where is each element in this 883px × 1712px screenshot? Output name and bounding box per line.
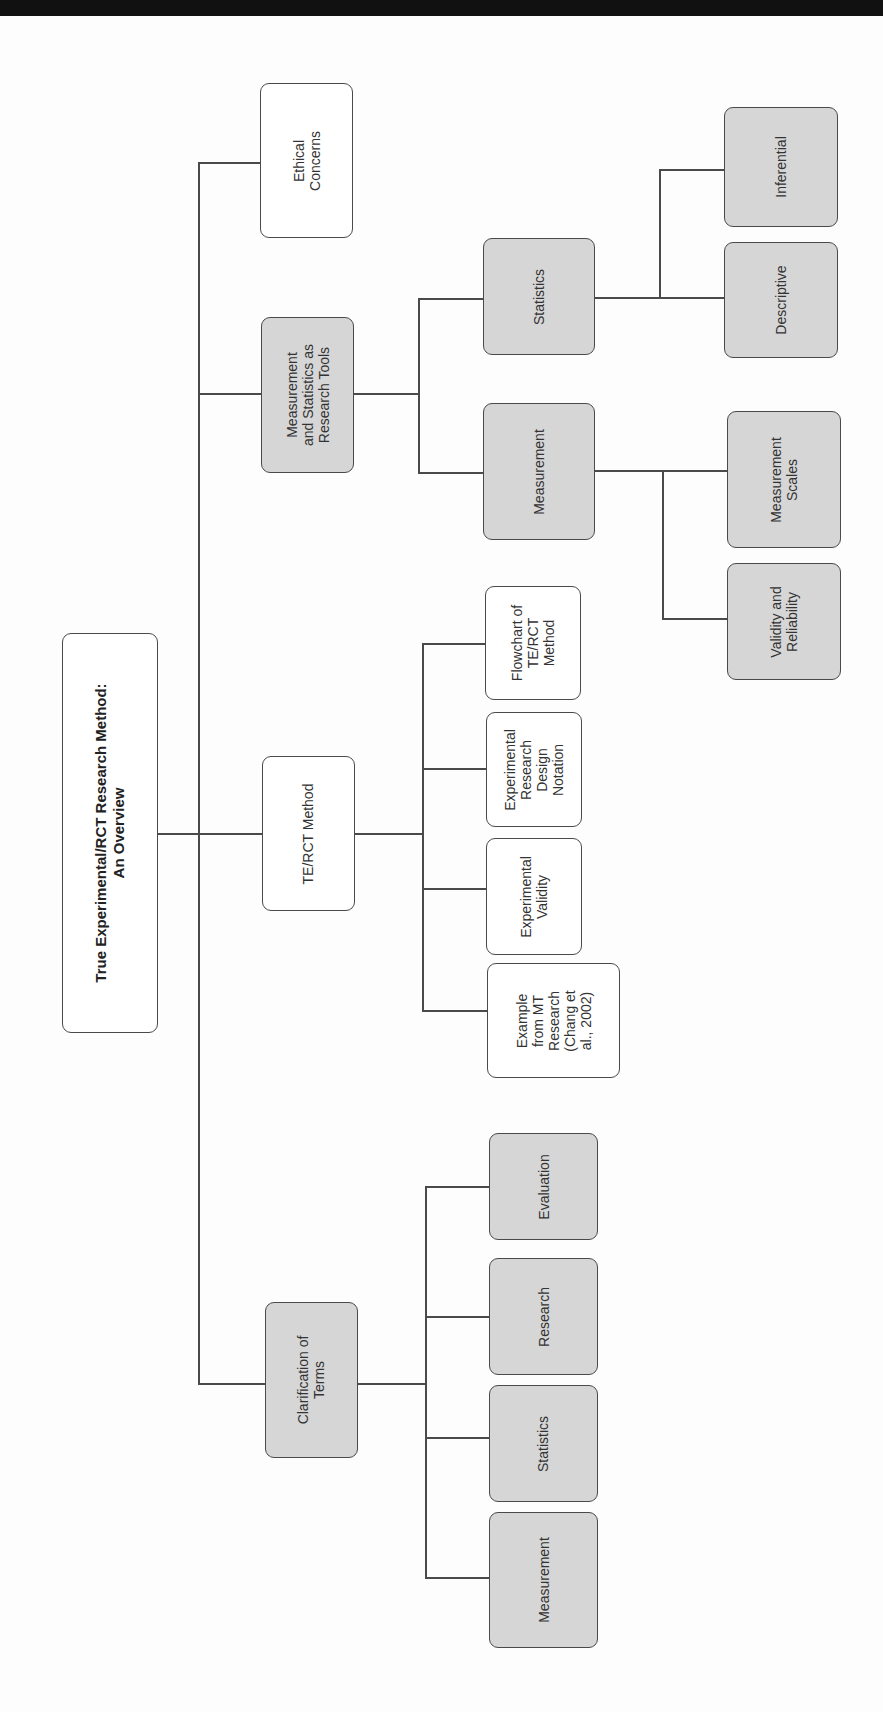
node-statistics: Statistics [489,1385,598,1502]
connector-clar-measurement [425,1577,489,1579]
node-label: Flowchart of TE/RCT Method [509,605,557,681]
top-black-band [0,0,883,16]
connector-ms-statistics [418,298,483,300]
root-node: True Experimental/RCT Research Method: A… [62,633,158,1033]
node-label: Measurement [531,429,547,515]
node-experimental-validity: Experimental Validity [486,838,582,955]
node-label: Experimental Research Design Notation [502,729,566,811]
connector-meas-out [595,470,727,472]
node-label: Inferential [773,136,789,197]
node-clarification-of-terms: Clarification of Terms [265,1302,358,1458]
root-label: True Experimental/RCT Research Method: A… [92,683,128,982]
node-label: Statistics [531,268,547,324]
node-ethical-concerns: Ethical Concerns [260,83,353,238]
connector-ms-measurement [418,472,483,474]
connector-measurement-statistics [198,393,261,395]
node-label: Evaluation [535,1154,551,1219]
node-label: Measurement and Statistics as Research T… [284,344,332,446]
node-descriptive: Descriptive [724,242,838,358]
node-measurement: Measurement [489,1512,598,1648]
node-label: Validity and Reliability [768,586,800,657]
node-measurement-statistics-tools: Measurement and Statistics as Research T… [261,317,354,473]
connector-te-rct [198,833,262,835]
node-label: TE/RCT Method [301,783,317,884]
connector-ethical [198,162,261,164]
node-label: Measurement Scales [768,437,800,523]
node-inferential: Inferential [724,107,838,227]
connector-te-bus [422,643,424,1011]
node-ms-measurement: Measurement [483,403,595,540]
connector-stat-out [595,297,724,299]
node-label: Experimental Validity [518,856,550,938]
connector-clar-evaluation [425,1186,489,1188]
connector-stat-bus [659,169,661,297]
node-research: Research [489,1258,598,1375]
connector-te-validity [422,888,486,890]
connector-main-bus [198,162,200,1384]
node-label: Descriptive [773,265,789,334]
connector-clar-bus [425,1186,427,1578]
node-validity-reliability: Validity and Reliability [727,563,841,680]
node-label: Ethical Concerns [290,131,322,191]
connector-te-flowchart [422,643,486,645]
node-label: Statistics [535,1415,551,1471]
node-evaluation: Evaluation [489,1133,598,1240]
connector-te-out [355,833,423,835]
node-label: Example from MT Research (Chang et al., … [513,990,593,1051]
connector-stat-inferential [659,169,724,171]
node-label: Measurement [536,1537,552,1623]
connector-meas-validity [662,618,727,620]
node-te-rct-method: TE/RCT Method [262,756,355,911]
node-experimental-design-notation: Experimental Research Design Notation [486,712,582,827]
connector-clar-out [358,1383,426,1385]
node-example-mt-research: Example from MT Research (Chang et al., … [487,963,620,1078]
connector-ms-out [353,393,419,395]
connector-meas-bus [662,470,664,619]
node-ms-statistics: Statistics [483,238,595,355]
connector-te-example [422,1010,488,1012]
node-measurement-scales: Measurement Scales [727,411,841,548]
connector-clar-research [425,1316,489,1318]
connector-root [158,833,199,835]
connector-ms-bus [418,298,420,473]
connector-te-notation [422,768,486,770]
connector-clar-statistics [425,1437,489,1439]
connector-clarification [198,1383,265,1385]
node-label: Research [535,1287,551,1347]
node-label: Clarification of Terms [295,1336,327,1425]
node-flowchart-te-rct: Flowchart of TE/RCT Method [485,586,581,700]
